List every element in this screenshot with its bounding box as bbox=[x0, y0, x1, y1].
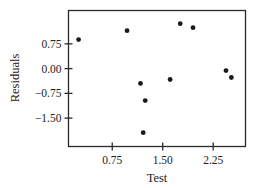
y-tick-label: −1.50 bbox=[35, 112, 62, 124]
data-point-marker bbox=[168, 77, 173, 82]
y-tick-label: 0.00 bbox=[41, 63, 61, 75]
data-point-marker bbox=[138, 81, 143, 86]
plot-canvas: 0.751.502.25 0.750.00−0.75−1.50 Test Res… bbox=[0, 0, 261, 188]
data-point-marker bbox=[76, 37, 81, 42]
data-point-marker bbox=[191, 25, 196, 30]
data-point-marker bbox=[229, 75, 234, 80]
y-tick-label: 0.75 bbox=[41, 38, 61, 50]
x-tick-label: 2.25 bbox=[203, 154, 223, 166]
plot-frame bbox=[69, 11, 246, 147]
data-point-marker bbox=[224, 68, 229, 73]
data-point-marker bbox=[125, 28, 130, 33]
data-points bbox=[76, 21, 234, 135]
data-point-marker bbox=[141, 130, 146, 135]
x-tick-label: 0.75 bbox=[102, 154, 122, 166]
data-point-marker bbox=[178, 21, 183, 26]
x-tick-label: 1.50 bbox=[153, 154, 173, 166]
data-point-marker bbox=[143, 98, 148, 103]
x-axis-label: Test bbox=[147, 171, 168, 185]
y-axis-label: Residuals bbox=[8, 54, 22, 103]
y-tick-label: −0.75 bbox=[35, 87, 62, 99]
y-axis-ticks: 0.750.00−0.75−1.50 bbox=[35, 38, 73, 124]
residuals-scatter-chart: 0.751.502.25 0.750.00−0.75−1.50 Test Res… bbox=[0, 0, 261, 188]
